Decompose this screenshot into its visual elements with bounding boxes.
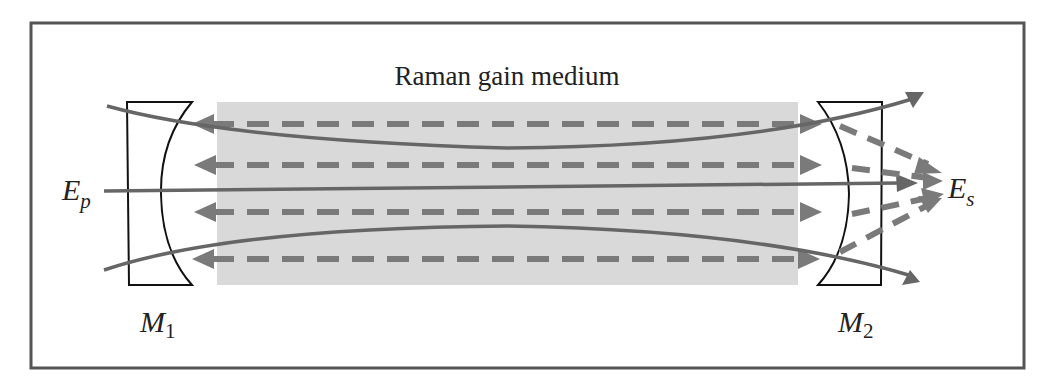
mirror-m1 bbox=[127, 102, 192, 285]
stokes-label: Es bbox=[947, 171, 975, 211]
stokes-output-arrowheads bbox=[914, 157, 944, 213]
stokes-output-fan bbox=[840, 126, 930, 252]
raman-laser-diagram: Raman gain medium bbox=[0, 0, 1054, 388]
gain-medium-label: Raman gain medium bbox=[395, 61, 620, 91]
mirror-m1-label: M1 bbox=[139, 305, 176, 343]
stokes-arrowheads-right bbox=[798, 114, 822, 269]
pump-label: Ep bbox=[61, 173, 91, 213]
mirror-m2-label: M2 bbox=[837, 305, 874, 343]
